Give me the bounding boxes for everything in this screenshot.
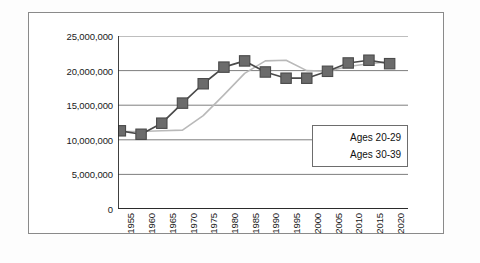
- y-axis-tick-label: 25,000,000: [66, 31, 113, 42]
- x-axis-tick-label: 2005: [333, 213, 344, 234]
- legend-key-line-icon: [317, 149, 345, 160]
- legend-label: Ages 20-29: [350, 132, 401, 143]
- data-point-marker: [364, 55, 374, 65]
- x-axis-tick-label: 1975: [208, 213, 219, 234]
- x-axis-labels: 1955196019651970197519801985199019952000…: [118, 213, 408, 257]
- chart-frame: 05,000,00010,000,00015,000,00020,000,000…: [28, 12, 444, 234]
- x-axis-tick-label: 1960: [146, 213, 157, 234]
- y-axis-tick-label: 0: [108, 204, 113, 215]
- data-point-marker: [198, 79, 208, 89]
- y-axis-tick-label: 15,000,000: [66, 100, 113, 111]
- x-axis-tick-label: 2015: [374, 213, 385, 234]
- x-axis-tick-label: 2020: [395, 213, 406, 234]
- chart-screenshot: 05,000,00010,000,00015,000,00020,000,000…: [0, 0, 480, 263]
- x-axis-tick-label: 2010: [353, 213, 364, 234]
- data-point-marker: [157, 118, 167, 128]
- x-axis-tick-label: 1990: [270, 213, 281, 234]
- x-axis-tick-label: 1970: [188, 213, 199, 234]
- y-axis-labels: 05,000,00010,000,00015,000,00020,000,000…: [29, 13, 113, 209]
- x-axis-tick-label: 2000: [312, 213, 323, 234]
- data-point-marker: [322, 66, 332, 76]
- legend-key-square-icon: [317, 132, 345, 143]
- x-axis-tick-label: 1955: [125, 213, 136, 234]
- data-point-marker: [281, 73, 291, 83]
- plot-area: [118, 36, 408, 209]
- data-point-marker: [239, 56, 249, 66]
- x-axis-tick-label: 1980: [229, 213, 240, 234]
- legend-label: Ages 30-39: [350, 149, 401, 160]
- legend-item-ages-30-39: Ages 30-39: [317, 146, 401, 163]
- data-point-marker: [136, 129, 146, 139]
- y-axis-tick-label: 10,000,000: [66, 134, 113, 145]
- y-axis-tick-label: 5,000,000: [72, 169, 113, 180]
- data-point-marker: [384, 58, 394, 68]
- x-axis-tick-label: 1965: [167, 213, 178, 234]
- x-axis-tick-label: 1995: [291, 213, 302, 234]
- data-point-marker: [343, 58, 353, 68]
- legend-item-ages-20-29: Ages 20-29: [317, 129, 401, 146]
- data-point-marker: [219, 62, 229, 72]
- x-axis-tick-label: 1985: [250, 213, 261, 234]
- data-point-marker: [302, 73, 312, 83]
- chart-legend: Ages 20-29 Ages 30-39: [312, 125, 408, 167]
- y-axis-tick-label: 20,000,000: [66, 65, 113, 76]
- chart-canvas: [118, 36, 408, 209]
- data-point-marker: [260, 67, 270, 77]
- data-point-marker: [118, 126, 126, 136]
- data-point-marker: [177, 98, 187, 108]
